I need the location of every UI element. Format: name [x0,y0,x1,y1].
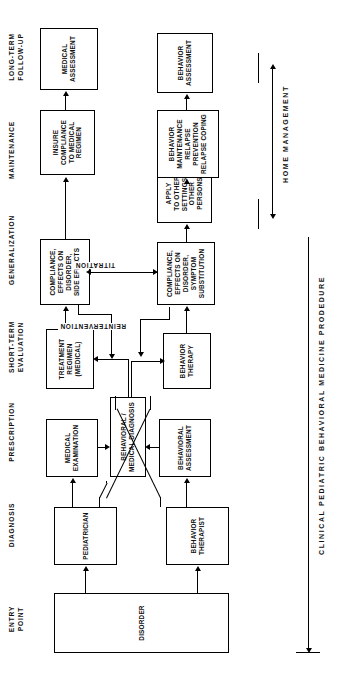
edge-diagnosis-behtherapy-h [131,361,132,397]
bracket-home-end-tick [258,53,259,83]
edge-behassess-diagnosis [150,447,159,448]
edge-cross-bt-end [115,396,116,410]
edge-cross-ped-end [150,396,151,410]
node-compliance-behavioral-label: COMPLIANCE, EFFECTS ON DISORDER, SYMPTOM… [166,249,205,299]
node-medical-assessment[interactable]: MEDICAL ASSESSMENT [40,28,98,90]
arrowhead-medex-diagnosis [105,445,110,451]
edge-reint-med-h [111,314,112,355]
node-behavior-therapist-label: BEHAVIOR THERAPIST [190,517,206,555]
bracket-home-line [272,67,273,215]
edge-reint-beh-v [140,319,170,320]
stage-header-maintenance: MAINTENANCE [8,107,17,193]
edge-label-titration: TITRATION [73,262,117,269]
node-medical-examination-label: MEDICAL EXAMINATION [64,425,80,471]
arrowhead-reintervention-medical [109,354,115,359]
edge-titration [90,272,157,273]
edge-disorder-pediatrician [85,570,86,593]
stage-header-diagnosis: DIAGNOSIS [8,485,17,565]
node-treatment-regimen[interactable]: TREATMENT REGIMEN (MEDICAL) [46,329,94,389]
arrowhead-behtherapy-compliance [184,306,190,311]
flowchart-canvas: ENTRY POINT DIAGNOSIS PRESCRIPTION SHORT… [0,0,349,675]
stage-header-generalization: GENERALIZATION [8,201,17,299]
node-behavior-assessment[interactable]: BEHAVIOR ASSESSMENT [157,33,213,93]
bracket-home-start-tick [258,199,259,229]
edge-behavior-therapist-behavioral-assessment [186,482,187,507]
node-behavior-maintenance[interactable]: BEHAVIOR MAINTENANCE RELAPSE PREVENTION … [157,110,219,178]
arrowhead-insure-medassess [63,91,69,96]
edge-disorder-behavior-therapist [197,570,198,593]
arrowhead-home-right [270,64,276,69]
stage-header-short-term-evaluation: SHORT-TERM EVALUATION [8,307,26,387]
node-behavior-therapy-label: BEHAVIOR THERAPY [179,344,195,379]
node-medical-assessment-label: MEDICAL ASSESSMENT [61,36,77,82]
edge-compliance-insure [65,181,66,239]
node-compliance-medical[interactable]: COMPLIANCE, EFFECTS ON DISORDER, SIDE EF… [40,239,90,305]
arrowhead-compliance-insure [63,177,69,182]
arrowhead-home-left [270,214,276,219]
edge-cross-ped-mid [106,481,107,483]
node-treatment-regimen-label: TREATMENT REGIMEN (MEDICAL) [58,339,81,380]
node-disorder-label: DISORDER [138,605,146,640]
arrowhead-diagnosis-behtherapy [160,359,165,365]
arrowhead-caption-left [306,648,312,653]
arrowhead-diagnosis-treatment [93,357,98,363]
node-behavior-assessment-label: BEHAVIOR ASSESSMENT [177,40,193,86]
arrowhead-maintenance-behassess [184,94,190,99]
arrowhead-apply-maintenance [184,179,190,184]
bracket-label-home-management: HOME MANAGEMENT [282,85,289,183]
arrowhead-pediatrician-medical-examination [70,478,76,483]
arrowhead-titration-down [153,270,158,276]
arrowhead-titration-up [86,270,91,276]
arrowhead-reintervention-behavioral [138,352,144,357]
arrowhead-disorder-pediatrician [83,566,89,571]
edge-reint-med-v [78,314,112,315]
edge-reint-beh-bot [169,307,170,320]
edge-cross-bt-start [160,497,161,507]
edge-compliance-apply [186,228,187,242]
node-disorder[interactable]: DISORDER [54,593,229,653]
node-medical-examination[interactable]: MEDICAL EXAMINATION [46,419,98,477]
stage-header-prescription: PRESCRIPTION [8,389,17,475]
arrowhead-disorder-behavior-therapist [195,566,201,571]
arrowhead-compliance-apply [184,224,190,229]
caption-bracket-line-end [308,238,309,239]
arrowhead-treatment-compliance [63,306,69,311]
edge-diagnosis-treatment-h [128,359,129,397]
arrowhead-behassess-diagnosis [145,445,150,451]
arrowhead-behavior-therapist-behavioral-assessment [184,478,190,483]
node-pediatrician-label: PEDIATRICIAN [82,512,90,559]
node-insure-compliance-label: INSURE COMPLIANCE TO MEDICAL REGIMEN [52,120,83,165]
edge-reint-med-top [78,305,79,315]
edge-insure-medassess [65,95,66,110]
figure-root: ENTRY POINT DIAGNOSIS PRESCRIPTION SHORT… [0,0,349,675]
node-behavior-therapy[interactable]: BEHAVIOR THERAPY [163,333,211,389]
node-compliance-behavioral[interactable]: COMPLIANCE, EFFECTS ON DISORDER, SYMPTOM… [157,242,215,305]
stage-header-long-term-followup: LONG-TERM FOLLOW-UP [8,17,26,97]
edge-pediatrician-medical-examination [72,482,73,507]
node-compliance-medical-label: COMPLIANCE, EFFECTS ON DISORDER, SIDE EF… [49,248,80,296]
node-pediatrician[interactable]: PEDIATRICIAN [54,507,117,565]
edge-reint-beh-h [140,319,141,353]
node-behavior-maintenance-label: BEHAVIOR MAINTENANCE RELAPSE PREVENTION … [168,114,207,174]
stage-header-entry-point: ENTRY POINT [8,583,26,655]
edge-label-reintervention: REINTERVENTION [58,323,128,330]
node-behavioral-assessment-label: BEHAVIORAL ASSESSMENT [177,425,193,471]
node-insure-compliance[interactable]: INSURE COMPLIANCE TO MEDICAL REGIMEN [40,110,95,175]
edge-maintenance-behassess [186,98,187,110]
figure-caption: CLINICAL PEDIATRIC BEHAVIORAL MEDICINE P… [318,276,325,555]
caption-bracket-line [308,237,309,649]
node-behavior-therapist[interactable]: BEHAVIOR THERAPIST [166,507,229,565]
edge-behtherapy-compliance [186,309,187,333]
node-behavioral-assessment[interactable]: BEHAVIORAL ASSESSMENT [159,419,211,477]
edge-diagnosis-behtherapy-v [131,361,163,362]
